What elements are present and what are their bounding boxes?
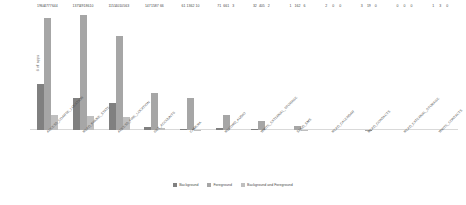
bar-value-label: 405 [259,4,265,8]
bar-chart: # of apps 196447776441375491861011514010… [0,0,466,205]
bar [37,84,44,130]
bar-column: 610 [87,8,94,130]
bar-value-label: 1 [432,4,434,8]
bar [216,128,223,130]
bar-column: 1 [430,8,437,130]
bar [251,129,258,130]
bar-column: 71 [216,8,223,130]
bar-value-label: 0 [404,4,406,8]
bar-group: 716613 [208,8,244,130]
bar-column: 1151 [109,8,116,130]
bar [151,93,158,130]
bar-value-label: 32 [253,4,257,8]
bar-column: 661 [223,8,230,130]
bar-value-label: 0 [375,4,377,8]
bar-column: 19 [365,8,372,130]
bar-column: 563 [123,8,130,130]
bar-column: 10 [194,8,201,130]
legend-item[interactable]: Background [173,183,198,187]
bar-value-label: 644 [52,4,58,8]
bar-group: 3190 [351,8,387,130]
bar-value-label: 3 [232,4,234,8]
bar-column: 1964 [37,8,44,130]
bar-column: 2 [265,8,272,130]
bar-column: 0 [372,8,379,130]
bar-value-label: 4777 [44,4,52,8]
bar-value-label: 4010 [115,4,123,8]
bar-column: 147 [144,8,151,130]
bar-column: 3 [358,8,365,130]
bar-group: 19644777644 [30,8,66,130]
bar-value-label: 0 [411,4,413,8]
legend-label: Foreground [213,183,232,187]
bar-group: 11626 [280,8,316,130]
bar-group: 200 [315,8,351,130]
bar-group: 61136210 [173,8,209,130]
bar-value-label: 0 [332,4,334,8]
bar-column: 1375 [73,8,80,130]
bar-value-label: 2 [325,4,327,8]
bar-column: 1 [287,8,294,130]
bar-group: 147158766 [137,8,173,130]
bar-column: 0 [408,8,415,130]
bar-group: 000 [387,8,423,130]
bar-value-label: 1 [290,4,292,8]
bar-value-label: 0 [339,4,341,8]
bar-value-label: 162 [295,4,301,8]
bar-column: 1587 [151,8,158,130]
bar-column: 32 [251,8,258,130]
legend-swatch-icon [241,183,245,187]
bar-column: 1362 [187,8,194,130]
bar-column: 0 [337,8,344,130]
x-axis-tick-labels: ACCESS_COARSE_LOCATIONREAD_PHONE_STATEAC… [30,131,458,179]
bar-value-label: 1362 [187,4,195,8]
legend-label: Background [179,183,198,187]
bar-column: 2 [323,8,330,130]
bar-column: 66 [158,8,165,130]
bar-value-label: 10 [196,4,200,8]
bar [80,15,87,130]
legend-swatch-icon [207,183,211,187]
bar [180,129,187,130]
bar-column: 0 [330,8,337,130]
bar-column: 405 [258,8,265,130]
bar-column: 0 [444,8,451,130]
bar-value-label: 0 [397,4,399,8]
legend-item[interactable]: Foreground [207,183,232,187]
bar-value-label: 147 [145,4,151,8]
bar-column: 3 [437,8,444,130]
bar-value-label: 71 [217,4,221,8]
bar-column: 4918 [80,8,87,130]
bar [116,36,123,130]
bar-value-label: 6 [304,4,306,8]
bar-column: 61 [180,8,187,130]
bar-value-label: 0 [446,4,448,8]
bar-value-label: 1587 [151,4,159,8]
bar-column: 4010 [116,8,123,130]
bar-column: 4777 [44,8,51,130]
bar-column: 644 [51,8,58,130]
bar-value-label: 19 [367,4,371,8]
legend-swatch-icon [173,183,177,187]
legend-label: Background and Foreground [247,183,293,187]
bar-column: 162 [294,8,301,130]
bar-group: 324052 [244,8,280,130]
bar [144,127,151,130]
bar-group: 13754918610 [66,8,102,130]
bar [44,18,51,130]
bar-value-label: 661 [223,4,229,8]
bar-column: 0 [401,8,408,130]
bar-column: 6 [301,8,308,130]
bar-value-label: 610 [88,4,94,8]
bar-value-label: 563 [123,4,129,8]
bar-column: 3 [230,8,237,130]
bar-column: 0 [394,8,401,130]
bar-value-label: 61 [182,4,186,8]
bar-value-label: 3 [361,4,363,8]
bar-value-label: 3 [439,4,441,8]
chart-legend: BackgroundForegroundBackground and Foreg… [0,183,466,187]
bar-value-label: 2 [268,4,270,8]
bar-value-label: 4918 [80,4,88,8]
legend-item[interactable]: Background and Foreground [241,183,293,187]
bar-value-label: 66 [160,4,164,8]
